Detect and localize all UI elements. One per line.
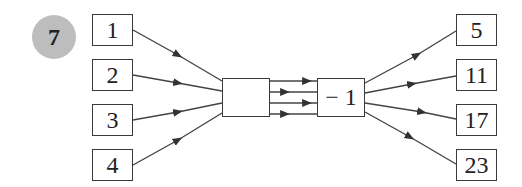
input-box-4: 4: [92, 149, 133, 181]
function-box-blank: [222, 78, 270, 117]
output-box-3: 17: [456, 104, 497, 136]
input-box-2: 2: [92, 59, 133, 91]
arrow-output-3: [365, 103, 456, 119]
input-box-1: 1: [92, 14, 133, 46]
arrow-input-1: [133, 30, 222, 81]
arrow-output-4: [365, 112, 456, 164]
output-box-1: 5: [456, 14, 497, 46]
arrow-output-2: [365, 76, 456, 93]
arrow-input-2: [133, 75, 222, 91]
output-box-4: 23: [456, 149, 497, 181]
arrow-input-3: [133, 103, 222, 120]
function-box-minus-one: − 1: [317, 78, 365, 117]
input-box-3: 3: [92, 104, 133, 136]
question-number-badge: 7: [32, 15, 76, 59]
arrow-input-4: [133, 113, 222, 165]
output-box-2: 11: [456, 59, 497, 91]
arrow-output-1: [365, 31, 456, 83]
